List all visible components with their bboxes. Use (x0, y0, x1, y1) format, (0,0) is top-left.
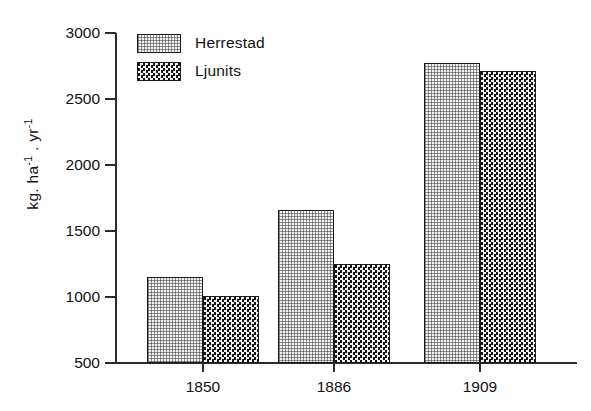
y-axis-tick (105, 164, 116, 166)
y-axis-title-prefix: kg. ha (24, 166, 41, 210)
y-axis-line (115, 33, 117, 364)
y-axis-tick-label: 1500 (44, 222, 100, 240)
bar-ljunits-1886 (334, 264, 390, 363)
y-axis-title: kg. ha-1 . yr-1 (24, 74, 42, 254)
y-axis-tick-label: 500 (44, 354, 100, 372)
x-axis-tick-label: 1850 (158, 378, 248, 396)
legend-label-herrestad: Herrestad (195, 34, 265, 52)
y-axis-tick (105, 98, 116, 100)
bar-herrestad-1850 (147, 277, 203, 363)
x-axis-tick-label: 1886 (289, 378, 379, 396)
y-axis-tick (105, 362, 116, 364)
bar-ljunits-1850 (203, 296, 259, 363)
bar-herrestad-1886 (278, 210, 334, 363)
legend-swatch-icon-ljunits (137, 62, 181, 81)
legend-label-ljunits: Ljunits (195, 62, 241, 80)
legend: Herrestad Ljunits (137, 31, 265, 87)
y-axis-tick-label: 3000 (44, 24, 100, 42)
y-axis-tick-label: 2500 (44, 90, 100, 108)
y-axis-title-exponent-1: -1 (22, 156, 34, 166)
legend-swatch-icon-herrestad (137, 34, 181, 53)
y-axis-tick-label: 1000 (44, 288, 100, 306)
x-axis-tick (202, 362, 204, 372)
x-axis-tick-label: 1909 (435, 378, 525, 396)
y-axis-tick (105, 32, 116, 34)
x-axis-tick (333, 362, 335, 372)
y-axis-tick (105, 230, 116, 232)
bar-herrestad-1909 (424, 63, 480, 363)
y-axis-title-exponent-2: -1 (22, 118, 34, 128)
bar-ljunits-1909 (480, 71, 536, 363)
bar-chart: kg. ha-1 . yr-1 30002500200015001000500 … (0, 0, 591, 411)
legend-item-ljunits: Ljunits (137, 59, 265, 83)
x-axis-tick (479, 362, 481, 372)
legend-item-herrestad: Herrestad (137, 31, 265, 55)
y-axis-title-middle: . yr (24, 128, 41, 155)
y-axis-tick (105, 296, 116, 298)
y-axis-tick-label: 2000 (44, 156, 100, 174)
